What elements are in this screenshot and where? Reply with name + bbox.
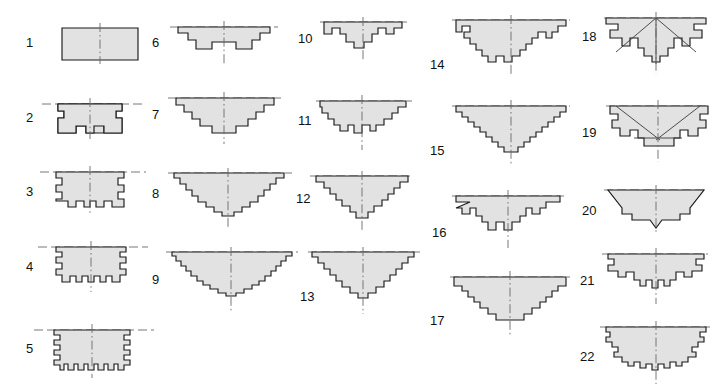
figure-item-13: 13	[294, 244, 430, 318]
figure-item-1-drawing	[26, 22, 151, 64]
figure-item-2-drawing	[26, 93, 156, 141]
figure-item-16: 16	[432, 186, 572, 252]
figure-item-4-drawing	[26, 238, 158, 294]
figure-item-8-drawing	[152, 165, 304, 233]
figure-item-18: 18	[582, 8, 714, 76]
figure-item-19: 19	[582, 96, 714, 166]
figure-item-11-drawing	[298, 92, 422, 154]
figure-item-14-drawing	[430, 12, 580, 80]
figure-item-5-drawing	[26, 318, 162, 380]
figure-item-9: 9	[152, 245, 310, 317]
figure-item-11: 11	[298, 92, 422, 154]
figure-item-6-drawing	[152, 18, 292, 68]
figure-item-14: 14	[430, 12, 580, 80]
figure-item-10-drawing	[298, 14, 418, 66]
figure-item-2: 2	[26, 93, 156, 141]
figure-item-18-drawing	[582, 8, 714, 76]
figure-item-22: 22	[580, 318, 714, 388]
figure-item-16-drawing	[432, 186, 572, 252]
figure-item-20: 20	[582, 182, 710, 238]
figure-item-17: 17	[430, 268, 578, 340]
figure-item-10: 10	[298, 14, 418, 66]
figure-item-21-drawing	[580, 244, 714, 308]
figure-item-19-drawing	[582, 96, 714, 166]
figure-item-15: 15	[430, 96, 580, 168]
figure-item-5: 5	[26, 318, 162, 380]
figure-canvas: 1 2 3 4 5	[0, 0, 714, 391]
figure-item-12-drawing	[296, 168, 424, 234]
figure-item-20-drawing	[582, 182, 710, 238]
figure-item-22-drawing	[580, 318, 714, 388]
figure-item-4: 4	[26, 238, 158, 294]
figure-item-6: 6	[152, 18, 292, 68]
figure-item-7-drawing	[152, 88, 294, 148]
figure-item-12: 12	[296, 168, 424, 234]
figure-item-13-drawing	[294, 244, 430, 318]
figure-item-1: 1	[26, 22, 151, 64]
figure-item-15-drawing	[430, 96, 580, 168]
figure-item-21: 21	[580, 244, 714, 308]
figure-item-3: 3	[26, 163, 156, 217]
figure-item-3-drawing	[26, 163, 156, 217]
figure-item-9-drawing	[152, 245, 310, 317]
figure-item-8: 8	[152, 165, 304, 233]
figure-item-17-drawing	[430, 268, 578, 340]
figure-item-7: 7	[152, 88, 294, 148]
